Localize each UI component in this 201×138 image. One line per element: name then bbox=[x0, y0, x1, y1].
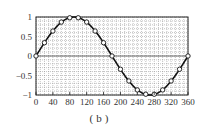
data-point-marker bbox=[101, 41, 105, 45]
figure-caption: (b) bbox=[0, 112, 201, 124]
data-point-marker bbox=[51, 29, 55, 33]
y-tick-label: −1 bbox=[22, 90, 32, 100]
data-point-marker bbox=[127, 79, 131, 83]
x-tick-label: 240 bbox=[131, 97, 145, 107]
x-tick-label: 360 bbox=[181, 97, 195, 107]
y-axis-ticks: 10.50−0.5−1 bbox=[16, 12, 33, 100]
y-tick-label: −0.5 bbox=[16, 71, 33, 81]
data-point-marker bbox=[93, 29, 97, 33]
y-tick-label: 0.5 bbox=[21, 32, 33, 42]
y-tick-label: 1 bbox=[28, 12, 33, 22]
x-tick-label: 40 bbox=[48, 97, 58, 107]
data-point-marker bbox=[42, 41, 46, 45]
y-tick-label: 0 bbox=[28, 51, 33, 61]
data-point-marker bbox=[177, 67, 181, 71]
x-tick-label: 0 bbox=[34, 97, 39, 107]
data-point-marker bbox=[68, 16, 72, 20]
x-tick-label: 280 bbox=[147, 97, 161, 107]
x-tick-label: 320 bbox=[164, 97, 178, 107]
data-point-marker bbox=[169, 79, 173, 83]
x-tick-label: 120 bbox=[80, 97, 94, 107]
data-point-marker bbox=[84, 20, 88, 24]
data-point-marker bbox=[186, 54, 190, 58]
data-point-marker bbox=[34, 54, 38, 58]
x-tick-label: 80 bbox=[65, 97, 75, 107]
data-point-marker bbox=[144, 92, 148, 96]
data-point-marker bbox=[118, 67, 122, 71]
x-tick-label: 200 bbox=[114, 97, 128, 107]
x-tick-label: 160 bbox=[97, 97, 111, 107]
x-axis-ticks: 04080120160200240280320360 bbox=[34, 92, 196, 107]
data-point-marker bbox=[76, 16, 80, 20]
data-point-marker bbox=[160, 88, 164, 92]
data-point-marker bbox=[135, 88, 139, 92]
data-point-marker bbox=[59, 20, 63, 24]
data-point-marker bbox=[110, 54, 114, 58]
